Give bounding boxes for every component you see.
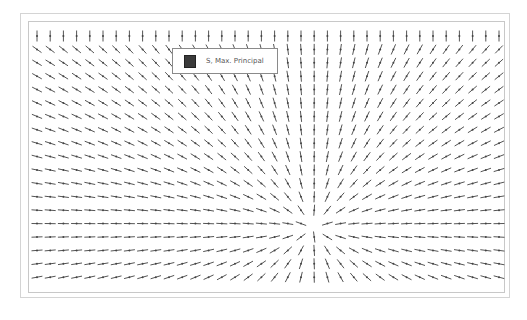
field-node [300,209,302,211]
field-node [142,223,144,225]
field-node [194,249,196,251]
field-node [142,48,144,50]
field-node [36,142,38,144]
field-node [485,276,487,278]
field-node [353,169,355,171]
field-node [300,102,302,104]
field-node [313,196,315,198]
field-node [181,156,183,158]
field-node [379,102,381,104]
field-node [76,102,78,104]
field-node [155,35,157,37]
field-node [49,115,51,117]
field-node [115,276,117,278]
field-node [406,102,408,104]
field-node [472,169,474,171]
field-node [142,75,144,77]
field-node [274,196,276,198]
field-node [89,115,91,117]
field-node [406,129,408,131]
field-node [379,142,381,144]
field-node [274,75,276,77]
field-node [379,75,381,77]
field-node [102,48,104,50]
field-node [485,236,487,238]
field-node [287,102,289,104]
field-node [419,102,421,104]
field-node [485,129,487,131]
field-node [353,48,355,50]
field-node [62,169,64,171]
field-node [432,169,434,171]
field-node [49,156,51,158]
field-node [300,156,302,158]
field-node [234,102,236,104]
field-node [300,249,302,251]
field-node [89,209,91,211]
field-node [208,75,210,77]
field-node [472,196,474,198]
field-node [194,35,196,37]
field-node [247,169,249,171]
field-node [445,276,447,278]
field-node [155,89,157,91]
field-node [221,263,223,265]
field-node [208,236,210,238]
field-node [313,142,315,144]
field-node [432,35,434,37]
field-node [89,276,91,278]
field-node [313,236,315,238]
field-node [234,263,236,265]
field-node [340,35,342,37]
field-node [419,223,421,225]
field-node [406,196,408,198]
field-node [353,75,355,77]
field-node [234,169,236,171]
field-node [102,75,104,77]
field-node [247,115,249,117]
field-node [181,263,183,265]
field-node [445,196,447,198]
field-node [49,102,51,104]
field-node [458,115,460,117]
field-node [340,129,342,131]
field-node [472,263,474,265]
field-node [76,196,78,198]
field-node [406,62,408,64]
field-node [221,182,223,184]
field-node [419,236,421,238]
field-node [260,209,262,211]
field-node [419,156,421,158]
field-node [392,169,394,171]
field-node [300,142,302,144]
field-node [142,62,144,64]
field-node [76,276,78,278]
field-node [221,156,223,158]
field-node [458,75,460,77]
field-node [247,196,249,198]
field-node [419,89,421,91]
field-node [445,75,447,77]
field-node [340,249,342,251]
field-node [287,276,289,278]
field-node [155,169,157,171]
field-node [89,156,91,158]
field-node [208,102,210,104]
field-node [247,223,249,225]
field-node [208,209,210,211]
field-node [458,249,460,251]
field-node [208,129,210,131]
field-node [181,249,183,251]
field-node [168,75,170,77]
field-node [340,196,342,198]
field-node [260,75,262,77]
field-node [36,209,38,211]
field-node [458,276,460,278]
field-node [445,263,447,265]
field-node [379,48,381,50]
field-node [419,142,421,144]
field-node [89,169,91,171]
field-node [445,48,447,50]
field-node [406,263,408,265]
field-node [432,249,434,251]
